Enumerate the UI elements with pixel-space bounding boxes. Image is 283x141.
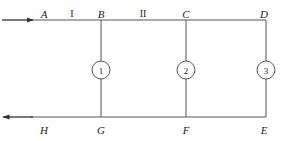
node-label-c: C [182,9,189,20]
node-label-d: D [260,9,268,20]
section-label-ii: II [140,9,147,19]
diagram-canvas [0,0,283,141]
branch-marker-2: 2 [177,61,196,80]
pipe-network-diagram: A B C D I II H G F E 1 2 3 [0,0,283,141]
node-label-a: A [41,9,48,20]
branch-marker-3: 3 [257,61,276,80]
node-label-b: B [98,9,105,20]
node-label-f: F [183,125,190,136]
section-label-i: I [70,9,73,19]
branch-marker-1: 1 [92,61,111,80]
node-label-g: G [97,125,105,136]
node-label-h: H [40,125,48,136]
node-label-e: E [261,125,268,136]
